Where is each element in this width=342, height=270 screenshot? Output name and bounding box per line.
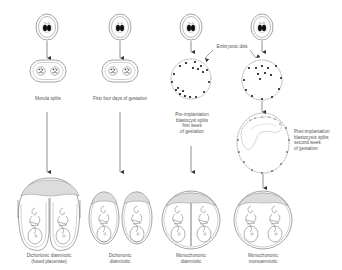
label-line: of gestation — [294, 146, 340, 152]
label-line: diamniotic — [170, 259, 212, 265]
outcome-label-3: Monochorionic diamniotic — [170, 253, 212, 264]
label-line: diamniotic — [100, 259, 140, 265]
label-line: (fused placentae) — [19, 259, 79, 265]
diagram-graphics — [0, 0, 342, 270]
column-1-graphics — [18, 14, 80, 250]
outcome-label-2: Dichorionic diamniotic — [100, 253, 140, 264]
label-line: Dichorionic diamniotic — [19, 253, 79, 259]
label-line: Monochorionic — [170, 253, 212, 259]
label-embryonic-disk: Embryonic disk — [212, 44, 252, 50]
twin-placentation-diagram: Morula splits First four days of gestati… — [0, 0, 342, 270]
label-line: Monochorionic — [242, 253, 284, 259]
column-2-graphics — [89, 14, 152, 244]
outcome-label-4: Monochorionic monoamniotic — [242, 253, 284, 264]
label-post-implantation: Post-implantation blastocysts splits sec… — [294, 129, 340, 151]
outcome-label-1: Dichorionic diamniotic (fused placentae) — [19, 253, 79, 264]
label-line: monoamniotic — [242, 259, 284, 265]
label-pre-implantation: Pre-implantation blastocyst splits first… — [171, 112, 213, 134]
label-morula-splits: Morula splits — [22, 96, 74, 102]
label-first-four-days: First four days of gestation — [88, 96, 152, 102]
label-line: Pre-implantation — [171, 112, 213, 118]
label-line: of gestation — [171, 129, 213, 135]
